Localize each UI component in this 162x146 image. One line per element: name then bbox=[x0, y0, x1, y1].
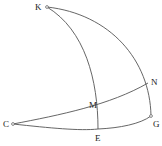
label-C: C bbox=[3, 119, 9, 129]
spherical-diagram: K C E G N M bbox=[0, 0, 162, 146]
arc-CG bbox=[13, 116, 151, 130]
arc-CN bbox=[13, 83, 148, 124]
label-M: M bbox=[89, 100, 97, 110]
point-C bbox=[12, 123, 15, 126]
label-K: K bbox=[35, 2, 42, 12]
label-G: G bbox=[153, 119, 160, 129]
arc-KE bbox=[47, 7, 98, 129]
label-N: N bbox=[151, 77, 158, 87]
label-E: E bbox=[95, 133, 101, 143]
arc-KG bbox=[47, 7, 151, 116]
point-G bbox=[150, 115, 153, 118]
point-K bbox=[46, 6, 49, 9]
